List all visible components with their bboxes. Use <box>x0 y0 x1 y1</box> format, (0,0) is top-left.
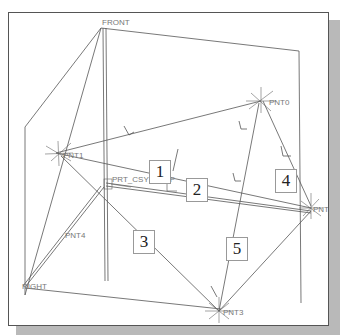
curve-pnt2-pnt3 <box>219 211 311 311</box>
curve-pnt4 <box>23 186 101 286</box>
front-datum-plane <box>25 28 101 295</box>
callout-1: 1 <box>149 160 171 184</box>
callout-5: 5 <box>226 237 248 261</box>
right-label: RIGHT <box>22 282 47 291</box>
pnt1-label: PNT1 <box>63 151 84 160</box>
frame-shadow-bottom <box>16 326 340 335</box>
curve-pnt0-pnt3 <box>219 103 259 311</box>
pnt0-label: PNT0 <box>269 98 290 107</box>
front-label: FRONT <box>102 18 130 27</box>
callout-2: 2 <box>186 178 208 202</box>
pnt3-label: PNT3 <box>223 308 244 317</box>
callout-3: 3 <box>133 230 155 254</box>
callout-4: 4 <box>275 169 297 193</box>
curve-pnt1-pnt0 <box>56 101 261 153</box>
frame-shadow-right <box>329 20 340 335</box>
pnt4-label: PNT4 <box>65 231 86 240</box>
pnt2-label: PNT2 <box>313 205 328 214</box>
